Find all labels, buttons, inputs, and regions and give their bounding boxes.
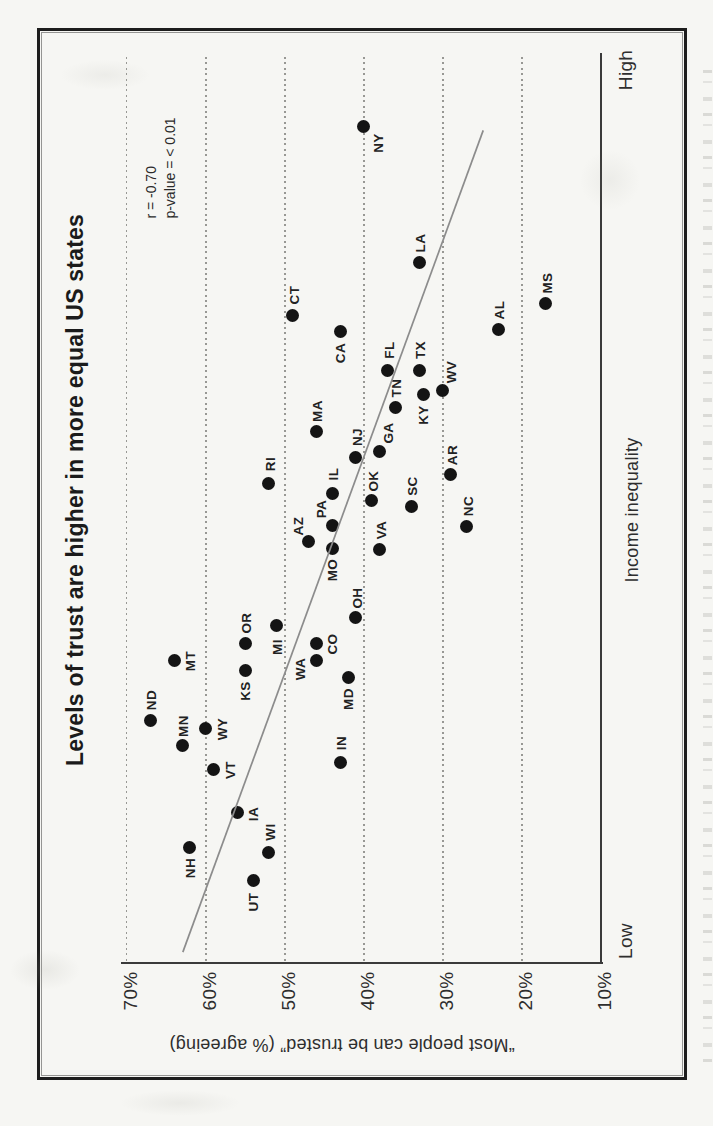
state-label-FL: FL (381, 342, 396, 359)
state-label-NY: NY (370, 133, 385, 153)
state-label-VA: VA (373, 521, 388, 540)
state-dot-VT (207, 763, 220, 776)
state-label-MT: MT (183, 651, 198, 671)
y-tick-label-60pct: 60% (199, 972, 221, 1011)
state-label-ND: ND (144, 690, 159, 710)
state-label-CT: CT (286, 286, 301, 305)
state-dot-MS (539, 297, 552, 310)
x-axis-label: Income inequality (622, 437, 643, 582)
state-dot-CO (310, 637, 323, 650)
gridline-40pct (363, 57, 365, 963)
state-label-VT: VT (222, 761, 237, 779)
state-label-UT: UT (246, 892, 261, 911)
state-label-IN: IN (334, 736, 349, 750)
state-dot-KS (239, 664, 252, 677)
state-dot-MN (176, 739, 189, 752)
state-label-OK: OK (365, 470, 380, 491)
income-inequality-axis-line (600, 53, 602, 964)
state-dot-SC (405, 500, 418, 513)
state-label-NJ: NJ (349, 428, 364, 446)
figure-frame (37, 28, 687, 1080)
state-label-NC: NC (460, 496, 475, 516)
state-label-NH: NH (182, 858, 197, 878)
state-dot-IL (326, 487, 339, 500)
state-dot-ND (144, 714, 157, 727)
state-label-LA: LA (413, 233, 428, 252)
gridline-30pct (442, 57, 444, 963)
state-label-OR: OR (239, 613, 254, 634)
y-tick-label-30pct: 30% (436, 972, 458, 1011)
state-label-WA: WA (293, 658, 308, 681)
state-dot-PA (326, 519, 339, 532)
state-label-RI: RI (262, 457, 277, 471)
state-label-CA: CA (333, 342, 348, 362)
state-dot-LA (413, 256, 426, 269)
correlation-annotation: r = -0.70 p-value = < 0.01 (142, 117, 180, 218)
state-label-MA: MA (310, 400, 325, 422)
state-dot-NC (460, 520, 473, 533)
state-dot-CT (286, 309, 299, 322)
state-label-AL: AL (492, 300, 507, 319)
state-label-PA: PA (314, 500, 329, 519)
state-dot-WA (310, 654, 323, 667)
state-dot-MT (168, 654, 181, 667)
state-dot-TX (413, 364, 426, 377)
state-label-OH: OH (349, 587, 364, 608)
y-tick-label-10pct: 10% (594, 972, 616, 1011)
gridline-50pct (284, 57, 286, 963)
state-dot-KY (417, 388, 430, 401)
state-label-MN: MN (176, 715, 191, 737)
chart-title: Levels of trust are higher in more equal… (62, 214, 89, 766)
gridline-70pct (126, 57, 128, 963)
state-label-AR: AR (444, 445, 459, 465)
state-dot-MD (342, 671, 355, 684)
state-label-AZ: AZ (290, 516, 305, 535)
state-label-KY: KY (416, 405, 431, 425)
state-dot-CA (334, 325, 347, 338)
state-dot-IN (334, 756, 347, 769)
x-axis-min-label: Low (615, 923, 637, 959)
state-label-WV: WV (443, 361, 458, 384)
x-axis-max-label: High (615, 50, 637, 90)
gridline-20pct (521, 57, 523, 963)
state-label-TN: TN (389, 378, 404, 397)
state-label-WY: WY (214, 718, 229, 741)
p-value: p-value = < 0.01 (161, 117, 180, 218)
correlation-value: r = -0.70 (142, 117, 161, 218)
page-showthrough-text-artifact (703, 70, 712, 1070)
state-label-IL: IL (326, 467, 341, 480)
state-label-MO: MO (325, 559, 340, 582)
state-label-GA: GA (380, 423, 395, 444)
trust-axis-line (121, 962, 603, 964)
y-tick-label-20pct: 20% (515, 972, 537, 1011)
y-tick-label-50pct: 50% (278, 972, 300, 1011)
state-label-KS: KS (238, 682, 253, 702)
state-dot-TN (389, 401, 402, 414)
state-label-IA: IA (246, 806, 261, 820)
state-label-SC: SC (405, 477, 420, 497)
state-label-WI: WI (262, 824, 277, 841)
state-dot-MA (310, 425, 323, 438)
state-dot-NH (183, 841, 196, 854)
y-tick-label-40pct: 40% (357, 972, 379, 1011)
scan-smudge (120, 1090, 240, 1116)
state-dot-FL (381, 364, 394, 377)
state-label-MI: MI (269, 639, 284, 655)
state-dot-AL (492, 323, 505, 336)
y-axis-label: “Most people can be trusted” (% agreeing… (169, 1034, 514, 1055)
state-dot-GA (373, 445, 386, 458)
gridline-60pct (205, 57, 207, 963)
state-dot-OR (239, 637, 252, 650)
state-dot-UT (247, 874, 260, 887)
state-label-CO: CO (325, 634, 340, 655)
state-dot-IA (231, 806, 244, 819)
book-page-scan: Levels of trust are higher in more equal… (0, 0, 713, 1126)
state-label-MD: MD (341, 688, 356, 710)
state-label-MS: MS (539, 273, 554, 294)
y-tick-label-70pct: 70% (120, 972, 142, 1011)
state-label-TX: TX (413, 341, 428, 359)
